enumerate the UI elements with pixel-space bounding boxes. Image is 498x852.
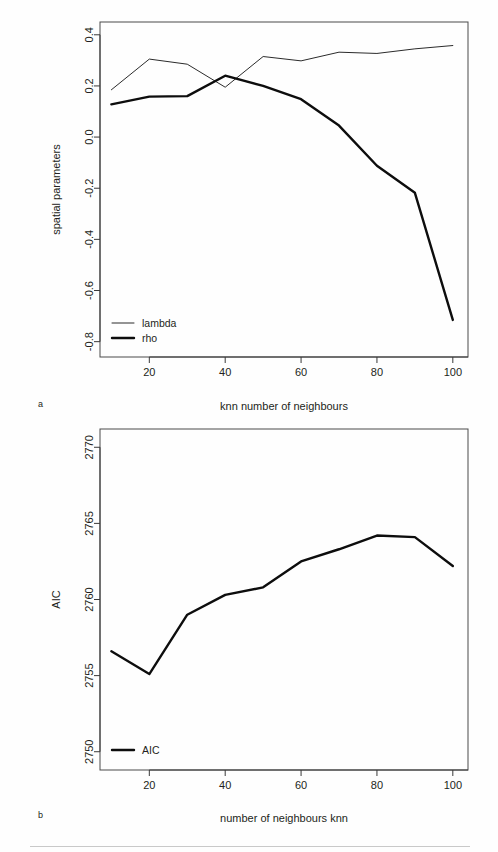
x-tick-label: 40 [219,779,231,791]
footer-divider [30,846,470,847]
x-tick-label: 20 [143,779,155,791]
y-tick-label: -0.4 [83,230,95,249]
y-axis-title: AIC [50,590,62,608]
y-tick-label: 2760 [83,587,95,611]
panel-letter-b: b [38,810,43,820]
chart-panel-b: 2040608010027702765276027552750number of… [0,425,498,835]
aic-chart: 2040608010027702765276027552750number of… [0,425,498,835]
x-tick-label: 100 [444,366,462,378]
x-tick-label: 40 [219,366,231,378]
legend-label-rho: rho [142,332,157,344]
y-tick-label: -0.2 [83,179,95,198]
plot-box [100,22,468,357]
y-tick-label: -0.6 [83,281,95,300]
y-tick-label: 2750 [83,739,95,763]
y-axis-title: spatial parameters [50,144,62,235]
y-tick-label: 0.0 [83,129,95,144]
spatial-parameters-chart: 204060801000.40.20.0-0.2-0.4-0.6-0.8knn … [0,0,498,425]
chart-panel-a: 204060801000.40.20.0-0.2-0.4-0.6-0.8knn … [0,0,498,425]
y-tick-label: 0.2 [83,78,95,93]
y-tick-label: 0.4 [83,27,95,42]
x-tick-label: 80 [371,366,383,378]
y-tick-label: -0.8 [83,332,95,351]
y-tick-label: 2770 [83,435,95,459]
series-line-lambda [111,46,452,90]
legend-label-lambda: lambda [142,317,177,329]
y-tick-label: 2755 [83,663,95,687]
x-tick-label: 60 [295,366,307,378]
x-axis-title: number of neighbours knn [220,812,348,824]
legend-label-AIC: AIC [142,744,160,756]
x-tick-label: 100 [444,779,462,791]
x-axis-title: knn number of neighbours [220,400,348,412]
x-tick-label: 20 [143,366,155,378]
plot-box [100,429,468,770]
x-tick-label: 60 [295,779,307,791]
figure-page: 204060801000.40.20.0-0.2-0.4-0.6-0.8knn … [0,0,498,852]
y-tick-label: 2765 [83,511,95,535]
series-line-AIC [111,536,452,675]
x-tick-label: 80 [371,779,383,791]
panel-letter-a: a [38,399,43,409]
series-line-rho [111,76,452,320]
